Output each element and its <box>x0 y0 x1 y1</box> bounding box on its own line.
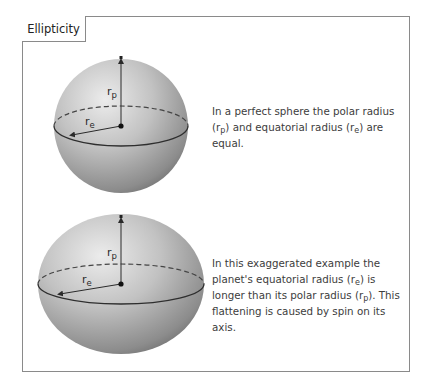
spheroid-caption: In this exaggerated example the planet's… <box>212 255 402 335</box>
north-pole-marker <box>120 56 123 59</box>
center-point <box>118 123 123 128</box>
sphere-caption: In a perfect sphere the polar radius (rp… <box>212 103 402 151</box>
oblate-spheroid-diagram: rp re <box>38 214 204 354</box>
center-point <box>118 281 123 286</box>
north-pole-marker <box>120 215 123 218</box>
sphere-diagram: rp re <box>54 56 188 193</box>
